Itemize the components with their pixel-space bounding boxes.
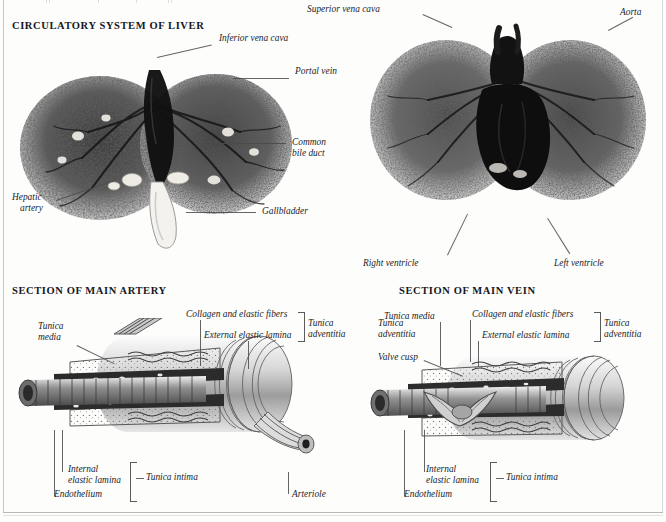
- label-vein-endothelium: Endothelium: [404, 489, 452, 500]
- label-vein-collagen-elastic-fibers: Collagen and elastic fibers: [472, 309, 573, 320]
- leader-vein-tunica-media: [440, 322, 441, 366]
- label-artery-tunica-intima: Tunica intima: [146, 472, 198, 483]
- page-border-left: [3, 0, 4, 513]
- leader-artery-internal-elastic-lamina: [62, 430, 63, 472]
- leader-artery-tunica-intima: [136, 478, 144, 479]
- label-artery-collagen-elastic-fibers: Collagen and elastic fibers: [186, 309, 287, 320]
- bracket-vein-tunica-intima: [490, 462, 497, 502]
- label-vein-internal-elastic-lamina-line1: Internal: [426, 464, 456, 475]
- page-title-circulatory-system-of-liver: CIRCULATORY SYSTEM OF LIVER: [12, 20, 204, 31]
- leader-vein-endothelium: [404, 430, 405, 496]
- label-artery-tunica-media-line2: media: [38, 332, 61, 343]
- liver-vascular-cast-posterior-photo: [370, 8, 650, 258]
- label-artery-endothelium: Endothelium: [54, 489, 102, 500]
- leader-artery-external-elastic-lamina: [248, 341, 249, 369]
- label-superior-vena-cava: Superior vena cava: [307, 4, 380, 15]
- label-artery-arteriole: Arteriole: [292, 489, 326, 500]
- label-portal-vein: Portal vein: [295, 66, 337, 77]
- label-left-ventricle: Left ventricle: [554, 258, 604, 269]
- page-border-right: [662, 0, 663, 513]
- label-vein-tunica-intima: Tunica intima: [506, 472, 558, 483]
- label-aorta: Aorta: [620, 7, 641, 18]
- label-artery-tunica-adventitia-line1: Tunica: [308, 318, 334, 329]
- bracket-artery-tunica-adventitia: [298, 312, 305, 342]
- leader-vein-collagen: [470, 320, 471, 362]
- document-page: CIRCULATORY SYSTEM OF LIVER: [0, 0, 666, 522]
- vein-cross-section-illustration: [366, 330, 662, 466]
- bracket-vein-tunica-adventitia: [594, 312, 601, 342]
- section-title-main-artery: SECTION OF MAIN ARTERY: [12, 285, 167, 296]
- section-title-main-vein: SECTION OF MAIN VEIN: [399, 285, 536, 296]
- leader-artery-endothelium: [54, 430, 55, 496]
- leader-common-bile-duct: [215, 143, 286, 144]
- leader-vein-tunica-intima: [496, 478, 504, 479]
- leader-artery-collagen: [200, 320, 201, 366]
- cropped-text-bleed: [40, 0, 240, 4]
- label-right-ventricle: Right ventricle: [363, 258, 418, 269]
- leader-portal-vein: [233, 78, 289, 79]
- label-vein-tunica-media: Tunica media: [384, 311, 435, 322]
- leader-gallbladder: [186, 212, 256, 213]
- label-artery-tunica-media-line1: Tunica: [38, 321, 64, 332]
- liver-vascular-cast-anterior-photo: [18, 40, 298, 260]
- label-common-bile-duct-line1: Common: [292, 137, 326, 148]
- page-border-bottom: [3, 512, 663, 513]
- label-vein-internal-elastic-lamina-line2: elastic lamina: [426, 475, 479, 486]
- label-hepatic-artery-line2: artery: [20, 203, 43, 214]
- label-artery-tunica-adventitia-line2: adventitia: [308, 329, 346, 340]
- label-inferior-vena-cava: Inferior vena cava: [219, 33, 288, 44]
- label-vein-external-elastic-lamina: External elastic lamina: [482, 330, 569, 341]
- label-artery-internal-elastic-lamina-line2: elastic lamina: [68, 475, 121, 486]
- label-gallbladder: Gallbladder: [262, 206, 308, 217]
- label-vein-tunica-adventitia-right-line2: adventitia: [604, 329, 642, 340]
- label-vein-valve-cusp: Valve cusp: [378, 352, 418, 363]
- label-vein-tunica-adventitia-right-line1: Tunica: [604, 318, 630, 329]
- leader-vein-external-elastic-lamina: [478, 341, 479, 367]
- bracket-artery-tunica-intima: [130, 462, 137, 502]
- leader-artery-arteriole: [288, 472, 289, 494]
- leader-vein-internal-elastic-lamina: [424, 430, 425, 472]
- page-border-bottom-secondary: [3, 515, 663, 516]
- label-hepatic-artery-line1: Hepatic: [12, 192, 42, 203]
- label-vein-tunica-adventitia-left-line2: adventitia: [378, 329, 416, 340]
- label-artery-internal-elastic-lamina-line1: Internal: [68, 464, 98, 475]
- label-artery-external-elastic-lamina: External elastic lamina: [204, 330, 291, 341]
- label-common-bile-duct-line2: bile duct: [292, 148, 325, 159]
